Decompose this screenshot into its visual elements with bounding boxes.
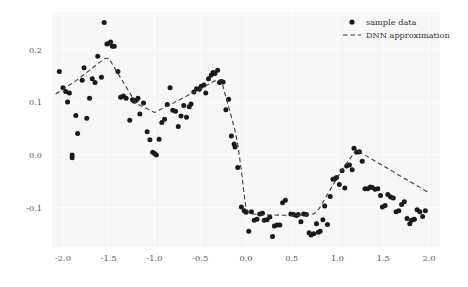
data-point [229, 134, 234, 139]
data-point [249, 209, 254, 214]
data-point [277, 222, 282, 227]
legend-label: sample data [366, 17, 417, 27]
data-point [137, 111, 142, 116]
x-tick-label: -1.5 [101, 253, 117, 263]
data-point [246, 229, 251, 234]
x-tick-label: -2.0 [55, 253, 71, 263]
data-point [141, 100, 146, 105]
data-point [402, 199, 407, 204]
data-point [342, 186, 347, 191]
data-point [168, 85, 173, 90]
data-point [412, 217, 417, 222]
data-point [173, 109, 178, 114]
x-tick-label: 1.5 [377, 253, 390, 263]
data-point [57, 69, 62, 74]
data-point [322, 203, 327, 208]
data-point [67, 90, 72, 95]
legend-label: DNN approximation [366, 30, 450, 40]
data-point [87, 96, 92, 101]
data-point [296, 212, 301, 217]
data-point [93, 80, 98, 85]
x-tick-label: 2.0 [423, 253, 436, 263]
x-tick-label: 0.0 [239, 253, 252, 263]
y-tick-label: -0.1 [26, 203, 42, 213]
data-point [176, 124, 181, 129]
data-point [283, 198, 288, 203]
data-point [203, 90, 208, 95]
data-point [179, 114, 184, 119]
chart-figure: -2.0-1.5-1.0-0.50.00.51.01.52.0-0.10.00.… [0, 0, 468, 287]
data-point [181, 103, 186, 108]
data-point [270, 234, 275, 239]
data-point [350, 167, 355, 172]
data-point [396, 208, 401, 213]
data-point [375, 186, 380, 191]
data-point [75, 131, 80, 136]
data-point [405, 216, 410, 221]
data-point [233, 145, 238, 150]
data-point [318, 229, 323, 234]
data-point [189, 102, 194, 107]
data-point [136, 96, 141, 101]
data-point [201, 83, 206, 88]
data-point [95, 54, 100, 59]
data-point [184, 115, 189, 120]
legend-marker-dot-icon [349, 19, 354, 24]
data-point [102, 20, 107, 25]
data-point [82, 65, 87, 70]
data-point [162, 117, 167, 122]
data-point [73, 113, 78, 118]
data-point [254, 217, 259, 222]
data-point [360, 159, 365, 164]
data-point [127, 118, 132, 123]
y-tick-label: 0.2 [29, 45, 42, 55]
data-point [147, 137, 152, 142]
data-point [378, 193, 383, 198]
x-tick-label: 1.0 [331, 253, 344, 263]
data-point [215, 68, 220, 73]
data-point [391, 196, 396, 201]
data-point [337, 182, 342, 187]
scatter-plot-svg: -2.0-1.5-1.0-0.50.00.51.01.52.0-0.10.00.… [0, 0, 468, 287]
data-point [420, 214, 425, 219]
y-tick-label: 0.0 [29, 150, 42, 160]
data-point [84, 116, 89, 121]
data-point [325, 222, 330, 227]
data-point [383, 203, 388, 208]
data-point [235, 165, 240, 170]
data-point [124, 96, 129, 101]
data-point [157, 137, 162, 142]
data-point [417, 209, 422, 214]
data-point [320, 217, 325, 222]
data-point [423, 208, 428, 213]
data-point [154, 153, 159, 158]
data-point [314, 221, 319, 226]
data-point [347, 162, 352, 167]
data-point [223, 107, 228, 112]
x-tick-label: 0.5 [285, 253, 298, 263]
data-point [99, 75, 104, 80]
x-tick-label: -1.0 [147, 253, 163, 263]
data-point [145, 129, 150, 134]
data-point [311, 231, 316, 236]
data-point [70, 155, 75, 160]
y-tick-label: 0.1 [29, 97, 42, 107]
x-tick-label: -0.5 [192, 253, 208, 263]
data-point [65, 99, 70, 104]
data-point [112, 44, 117, 49]
data-point [298, 219, 303, 224]
data-point [328, 194, 333, 199]
data-point [80, 78, 85, 83]
